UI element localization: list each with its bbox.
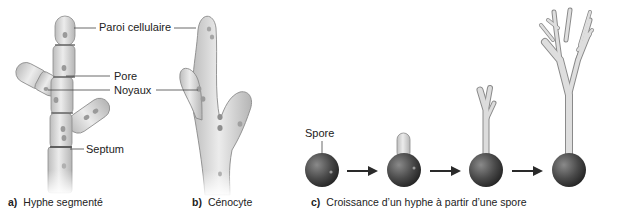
- label-pore: Pore: [114, 71, 137, 82]
- label-cell-wall: Paroi cellulaire: [99, 22, 171, 33]
- coenocytic-hypha: [180, 16, 252, 197]
- spore-stage-2: [387, 153, 421, 187]
- caption-c-letter: c): [311, 196, 320, 208]
- diagram-art: [0, 0, 619, 215]
- spore-stage-1: [305, 153, 339, 187]
- caption-c: c)Croissance d’un hyphe à partir d’une s…: [311, 197, 527, 208]
- caption-a: a)Hyphe segmenté: [8, 197, 103, 208]
- label-nuclei: Noyaux: [114, 85, 151, 96]
- spore-stage-4: [552, 153, 586, 187]
- caption-b-text: Cénocyte: [208, 196, 252, 208]
- spore-growth-sequence: [305, 10, 592, 187]
- caption-b-letter: b): [192, 196, 202, 208]
- segmented-hypha: [12, 16, 113, 195]
- label-septum: Septum: [86, 144, 124, 155]
- label-spore: Spore: [305, 128, 334, 139]
- caption-c-text: Croissance d’un hyphe à partir d’une spo…: [326, 196, 526, 208]
- spore-stage-3: [469, 153, 503, 187]
- caption-a-letter: a): [8, 196, 17, 208]
- caption-b: b)Cénocyte: [192, 197, 252, 208]
- caption-a-text: Hyphe segmenté: [23, 196, 102, 208]
